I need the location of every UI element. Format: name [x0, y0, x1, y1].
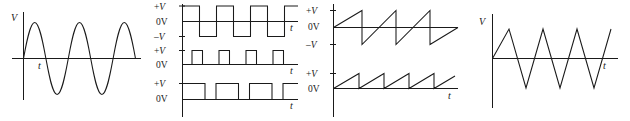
square2-label-plus-v: +V — [154, 46, 166, 56]
panel-sawtooth-waves: +V 0V –V +V 0V t — [305, 0, 465, 121]
square1-label-minus-v: –V — [153, 32, 166, 42]
sine-x-axis-label: t — [38, 60, 41, 71]
square2-waveform-path — [183, 51, 299, 65]
saw2-x-axis-label: t — [448, 90, 451, 101]
saw2-label-plus-v: +V — [306, 69, 318, 79]
panel-sine-wave: V t — [0, 0, 150, 121]
square1-label-zero-v: 0V — [156, 17, 168, 27]
waveform-figure: V t +V 0V –V t +V 0V — [0, 0, 630, 121]
square3-x-axis-label: t — [290, 100, 293, 111]
sine-y-axis-label: V — [11, 12, 19, 23]
square1-label-plus-v: +V — [154, 2, 166, 12]
triangle-x-axis-label: t — [603, 60, 606, 71]
square2-x-axis-label: t — [290, 65, 293, 76]
square-plots-svg: +V 0V –V t +V 0V t +V 0V t — [150, 0, 305, 121]
triangle-plot-svg: V t — [465, 0, 630, 121]
sine-plot-svg: V t — [0, 0, 150, 121]
saw2-waveform-path — [334, 74, 456, 89]
panel-triangle-wave: V t — [465, 0, 630, 121]
triangle-y-axis-label: V — [479, 16, 487, 27]
sawtooth-plots-svg: +V 0V –V +V 0V t — [305, 0, 465, 121]
saw1-label-zero-v: 0V — [308, 22, 320, 32]
square1-x-axis-label: t — [290, 22, 293, 33]
panel-square-waves: +V 0V –V t +V 0V t +V 0V t — [150, 0, 305, 121]
square3-waveform-path — [183, 84, 299, 100]
square3-label-plus-v: +V — [154, 79, 166, 89]
saw2-label-zero-v: 0V — [308, 84, 320, 94]
saw1-label-plus-v: +V — [306, 6, 318, 16]
square2-label-zero-v: 0V — [156, 60, 168, 70]
saw1-label-minus-v: –V — [305, 40, 318, 50]
square3-label-zero-v: 0V — [156, 94, 168, 104]
